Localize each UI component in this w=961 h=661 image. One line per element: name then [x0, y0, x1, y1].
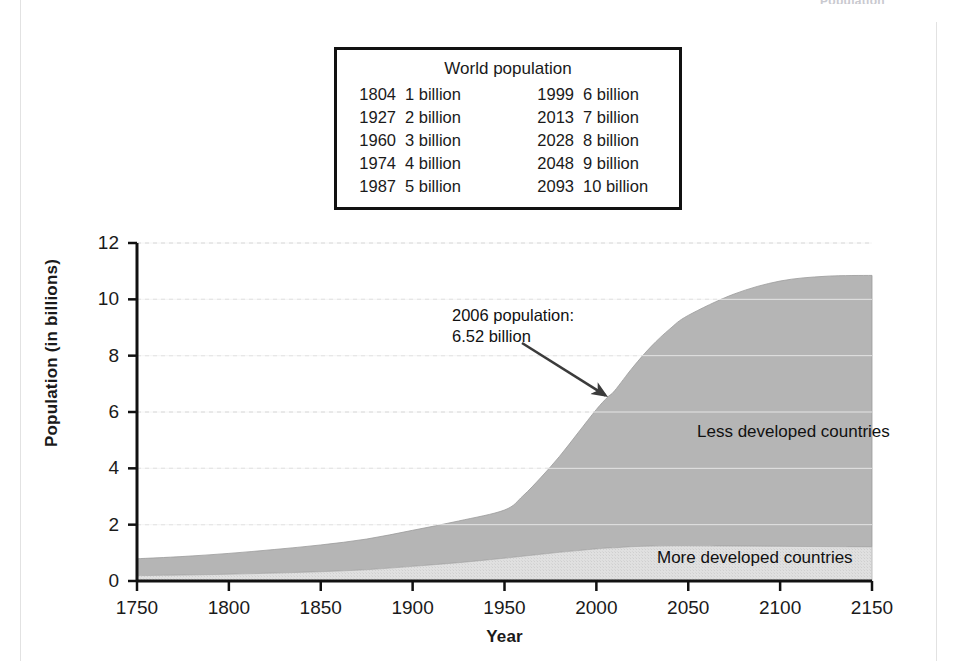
x-tick-label: 1900 — [373, 598, 453, 617]
series-label-less-developed: Less developed countries — [697, 423, 890, 441]
y-tick-label: 10 — [79, 289, 119, 308]
x-tick-label: 2150 — [832, 598, 912, 617]
area-series — [137, 243, 872, 581]
x-axis-title: Year — [137, 627, 872, 647]
y-tick-label: 0 — [79, 571, 119, 590]
y-tick-label: 8 — [79, 346, 119, 365]
annotation-arrow-icon — [522, 343, 605, 395]
x-tick-label: 1750 — [97, 598, 177, 617]
y-tick-label: 4 — [79, 458, 119, 477]
y-tick-label: 6 — [79, 402, 119, 421]
annotation-line-1: 2006 population: — [452, 305, 574, 326]
series-label-more-developed: More developed countries — [657, 549, 853, 567]
annotation-line-2: 6.52 billion — [452, 326, 531, 347]
x-tick-label: 2100 — [740, 598, 820, 617]
y-tick-label: 2 — [79, 515, 119, 534]
x-tick-label: 2000 — [556, 598, 636, 617]
y-axis-title: Population (in billions) — [42, 203, 62, 503]
population-area-chart: Population (in billions) Year 024681012 … — [0, 0, 961, 661]
x-tick-label: 2050 — [648, 598, 728, 617]
x-tick-label: 1950 — [465, 598, 545, 617]
x-tick-label: 1800 — [189, 598, 269, 617]
x-tick-label: 1850 — [281, 598, 361, 617]
y-tick-label: 12 — [79, 233, 119, 252]
